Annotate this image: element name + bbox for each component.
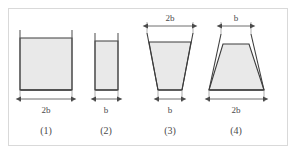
container-cross-sections-diagram: 2b (1) b (2) 2b b (3) xyxy=(0,0,296,154)
shape-4-group: b 2b (4) xyxy=(209,13,264,137)
shape-1-caption: (1) xyxy=(40,125,52,137)
shape-3-group: 2b b (3) xyxy=(147,13,193,137)
shape-3-top-dimension-label: 2b xyxy=(166,13,176,23)
shape-1-group: 2b (1) xyxy=(20,30,72,137)
shape-1-bottom-dimension-label: 2b xyxy=(42,105,52,115)
shape-4-top-dimension-label: b xyxy=(234,13,239,23)
shape-2-caption: (2) xyxy=(100,125,112,137)
shape-2-bottom-dimension-label: b xyxy=(104,105,109,115)
shape-3-liquid-body xyxy=(149,42,191,90)
shape-4-caption: (4) xyxy=(230,125,242,137)
shape-2-group: b (2) xyxy=(95,33,118,137)
shape-3-caption: (3) xyxy=(164,125,176,137)
shape-1-liquid-body xyxy=(20,38,72,90)
shape-2-liquid-body xyxy=(95,41,118,90)
shape-3-bottom-dimension-label: b xyxy=(168,105,173,115)
shape-4-bottom-dimension-label: 2b xyxy=(232,105,242,115)
